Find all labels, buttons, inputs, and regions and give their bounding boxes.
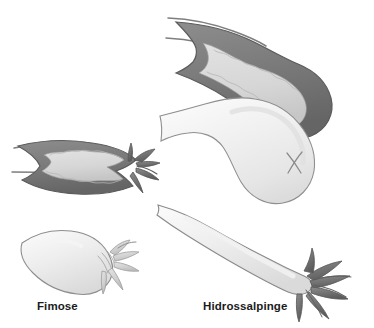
hydrosalpinx-body — [157, 205, 312, 294]
panel-pale-teardrop-tube — [21, 231, 139, 295]
figure-label-hidrossalpinge: Hidrossalpinge — [203, 300, 287, 312]
spindle-lumen-light — [42, 150, 124, 181]
medical-illustration-canvas — [0, 0, 374, 328]
panel-spindle-shaped-tube — [12, 141, 160, 195]
figure-label-fimose: Fimose — [37, 300, 78, 312]
